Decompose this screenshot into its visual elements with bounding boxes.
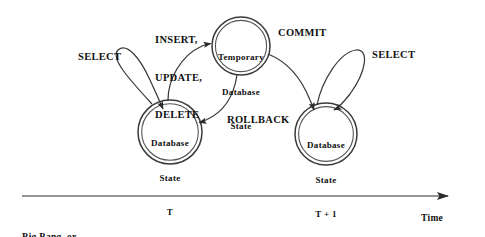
node-state-t-line2: State (138, 173, 202, 185)
edge-select-left-label: SELECT (78, 51, 121, 64)
node-state-t-plus-1-label: Database State T + 1 (294, 117, 358, 237)
edge-iud-line1: INSERT, (155, 34, 202, 47)
edge-iud-line2: UPDATE, (155, 72, 202, 85)
node-temp-line2: Database (209, 87, 273, 99)
edge-iud-line3: DELETE (155, 109, 202, 122)
node-state-t1-line3: T + 1 (294, 209, 358, 221)
node-state-t-line3: T (138, 207, 202, 219)
timeline-origin-label: Big Bang, or Database Creation (22, 207, 103, 237)
node-state-t1-line2: State (294, 175, 358, 187)
node-state-t1-line1: Database (294, 140, 358, 152)
edge-commit-label: COMMIT (278, 27, 326, 40)
timeline-end-label: Time (421, 212, 443, 224)
edge-commit-path (268, 54, 314, 110)
edge-insert-update-delete-label: INSERT, UPDATE, DELETE (155, 9, 202, 147)
edge-select-right-label: SELECT (372, 49, 415, 62)
diagram-canvas: Database State T Temporary Database Stat… (0, 0, 485, 237)
edge-rollback-label: ROLLBACK (227, 114, 290, 127)
node-temp-line1: Temporary (209, 52, 273, 64)
node-temporary-database-state-label: Temporary Database State (209, 29, 273, 156)
edge-select-right-path (317, 50, 365, 110)
timeline-origin-line1: Big Bang, or (22, 231, 103, 237)
